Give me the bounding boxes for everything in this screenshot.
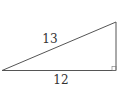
base-label: 12 — [53, 73, 68, 86]
hypotenuse-label: 13 — [42, 32, 57, 46]
right-triangle — [2, 22, 116, 71]
triangle-diagram: 13 12 — [0, 0, 129, 86]
right-angle-marker — [112, 67, 116, 71]
